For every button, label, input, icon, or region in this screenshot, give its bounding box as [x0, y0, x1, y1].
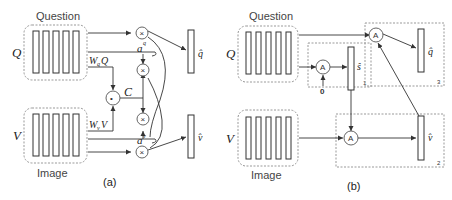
- image-label-b: Image: [251, 169, 282, 181]
- v-hat-output-bar: [188, 115, 194, 158]
- wq-label: W q Q: [89, 55, 109, 67]
- question-label-b: Question: [249, 10, 293, 22]
- v-hat-label-b: v̂: [428, 132, 433, 143]
- multiply-op-top: ×: [136, 27, 148, 39]
- image-feature-bars: [33, 114, 79, 156]
- v-hat-label: v̂: [198, 132, 203, 143]
- wv-label: W v V: [89, 119, 109, 131]
- step-3-label: 3: [437, 79, 441, 85]
- svg-text:v: v: [143, 133, 146, 139]
- question-feature-bars-b: [246, 32, 291, 74]
- svg-text:×: ×: [141, 66, 146, 75]
- attention-op-step3: A: [369, 28, 383, 42]
- s-hat-label: ŝ: [357, 61, 361, 72]
- av-label: a v: [137, 133, 146, 146]
- svg-text:V: V: [101, 119, 109, 130]
- s-hat-bar: [348, 47, 354, 90]
- caption-b: (b): [347, 180, 360, 192]
- co-attention-diagram: Question Q V Image: [0, 0, 452, 200]
- svg-text:Q: Q: [101, 55, 109, 66]
- q-symbol: Q: [12, 45, 22, 60]
- multiply-op-bottom: ×: [136, 146, 148, 158]
- svg-text:A: A: [348, 134, 354, 143]
- svg-text:A: A: [373, 31, 379, 40]
- svg-text:A: A: [320, 63, 326, 72]
- q-hat-label: q̂: [198, 48, 203, 59]
- q-hat-output-bar: [188, 30, 194, 73]
- svg-text:×: ×: [140, 148, 145, 157]
- attention-op-step1: A: [316, 60, 330, 74]
- question-feature-bars: [33, 31, 79, 73]
- zero-input: 0: [320, 87, 325, 96]
- multiply-op-mid-upper: ×: [137, 64, 149, 76]
- dot-product-op: •: [106, 91, 120, 105]
- svg-text:q: q: [97, 61, 100, 67]
- q-symbol-b: Q: [226, 46, 236, 61]
- image-label: Image: [37, 167, 68, 179]
- step-2-label: 2: [437, 160, 441, 166]
- c-label: C: [124, 85, 133, 99]
- svg-text:q: q: [143, 40, 146, 46]
- image-feature-bars-b: [246, 117, 291, 159]
- multiply-op-mid-lower: ×: [137, 113, 149, 125]
- panel-b: Question Q V Image 1 3 2: [226, 10, 444, 192]
- svg-text:×: ×: [141, 115, 146, 124]
- svg-text:•: •: [110, 94, 113, 103]
- svg-text:×: ×: [140, 29, 145, 38]
- question-label: Question: [36, 10, 80, 22]
- svg-text:v: v: [97, 125, 100, 131]
- q-hat-label-b: q̂: [428, 46, 433, 57]
- v-hat-bar-b: [418, 116, 424, 160]
- attention-op-step2: A: [344, 131, 358, 145]
- caption-a: (a): [103, 176, 116, 188]
- panel-a: Question Q V Image: [12, 10, 203, 188]
- v-symbol-b: V: [226, 131, 236, 146]
- q-hat-bar-b: [418, 29, 424, 72]
- v-symbol: V: [13, 128, 23, 143]
